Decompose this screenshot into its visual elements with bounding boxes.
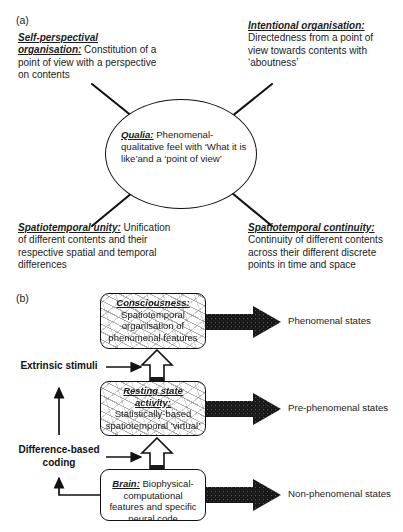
node-body: Directedness from a point of view toward… — [248, 32, 373, 68]
node-term: Qualia: — [121, 129, 154, 140]
up-arrow-brain-to-resting — [140, 437, 174, 472]
node-spatiotemporal-continuity: Spatiotemporal continuity: Continuity of… — [248, 222, 400, 271]
node-qualia: Qualia: Phenomenal-qualitative feel with… — [121, 129, 249, 165]
box-term: Consciousness: — [116, 297, 189, 308]
box-body: Spatiotemporal organisation of phenomena… — [108, 309, 197, 343]
output-arrow-phenomenal — [203, 306, 281, 338]
box-body: Statistically-based spatiotemporal ‘virt… — [106, 408, 201, 436]
box-term: Brain: — [112, 478, 139, 489]
box-consciousness[interactable]: Consciousness: Spatiotemporal organisati… — [100, 293, 206, 349]
node-term: Spatiotemporal unity: — [18, 222, 121, 233]
box-resting-state-activity[interactable]: Resting state activity: Statistically-ba… — [100, 381, 206, 436]
node-spatiotemporal-unity: Spatiotemporal unity: Unification of dif… — [18, 222, 173, 271]
output-arrow-non-phenomenal — [203, 479, 281, 511]
up-arrow-resting-to-consciousness — [140, 349, 174, 384]
node-intentional-organisation: Intentional organisation: Directedness f… — [248, 20, 391, 69]
node-self-perspectival-organisation: Self-perspectival organisation: Constitu… — [18, 32, 158, 81]
node-body: Continuity of different contents across … — [248, 234, 383, 270]
node-term: Spatiotemporal continuity: — [248, 222, 375, 233]
node-term: Intentional organisation: — [248, 20, 365, 31]
box-term: Resting state activity: — [123, 385, 183, 408]
box-brain[interactable]: Brain: Biophysical-computational feature… — [100, 469, 206, 521]
output-arrow-pre-phenomenal — [203, 393, 281, 425]
